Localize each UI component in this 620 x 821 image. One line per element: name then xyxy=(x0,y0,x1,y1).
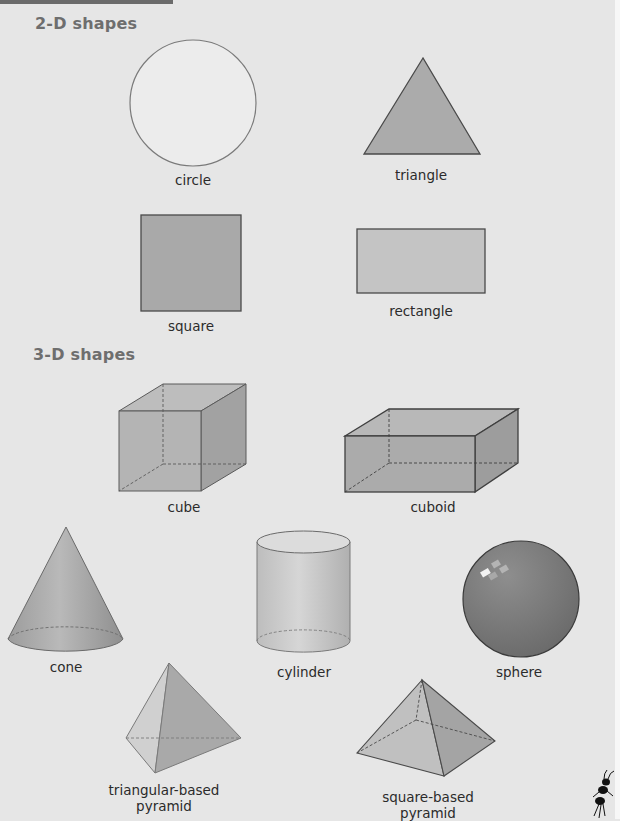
cylinder-shape xyxy=(257,531,350,652)
cube-shape xyxy=(119,384,246,491)
sphere-label: sphere xyxy=(496,664,542,680)
square-pyramid-shape xyxy=(357,680,495,776)
square-pyramid-label-line2: pyramid xyxy=(382,805,474,821)
cube-label: cube xyxy=(168,499,201,515)
square-label: square xyxy=(168,318,214,334)
sphere-shape xyxy=(463,541,579,657)
triangular-pyramid-label: triangular-based pyramid xyxy=(109,782,220,814)
triangular-pyramid-label-line1: triangular-based xyxy=(109,782,220,798)
triangular-pyramid-shape xyxy=(126,663,241,773)
square-shape xyxy=(141,215,241,311)
cuboid-shape xyxy=(345,409,518,492)
circle-shape xyxy=(130,40,256,166)
cuboid-label: cuboid xyxy=(410,499,455,515)
square-pyramid-label-line1: square-based xyxy=(382,789,474,805)
cone-label: cone xyxy=(50,659,83,675)
triangle-shape xyxy=(364,58,480,154)
cylinder-label: cylinder xyxy=(277,664,331,680)
triangle-label: triangle xyxy=(395,167,447,183)
square-pyramid-label: square-based pyramid xyxy=(382,789,474,821)
cone-shape xyxy=(8,527,123,651)
triangular-pyramid-label-line2: pyramid xyxy=(109,798,220,814)
ant-mascot-icon xyxy=(590,770,620,820)
circle-label: circle xyxy=(175,172,211,188)
rectangle-label: rectangle xyxy=(389,303,453,319)
rectangle-shape xyxy=(357,229,485,293)
